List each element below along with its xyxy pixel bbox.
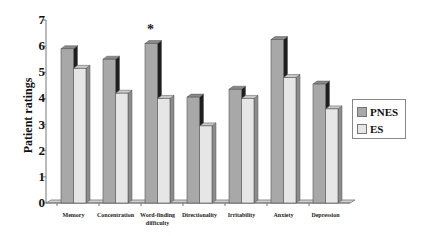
bar-pnes [229, 89, 242, 203]
bar-es [200, 126, 213, 203]
y-tick-label: 7 [35, 13, 45, 26]
legend-swatch-es [357, 124, 367, 134]
x-tick-label-line: Depression [301, 211, 351, 219]
legend: PNES ES [352, 99, 406, 139]
bar-pnes [61, 49, 74, 203]
bar-side-es [338, 106, 342, 203]
legend-label: ES [370, 123, 383, 135]
bar-pnes [271, 40, 284, 203]
y-tick-label: 6 [35, 39, 45, 52]
legend-swatch-pnes [357, 107, 367, 117]
x-tick-label-line: difficulty [133, 219, 183, 227]
bar-pnes [145, 44, 158, 203]
bar-pnes [313, 84, 326, 203]
y-tick-label: 0 [35, 196, 45, 209]
legend-item-es: ES [357, 123, 383, 135]
bar-side-es [170, 95, 174, 203]
bar-side-es [296, 75, 300, 203]
bar-es [116, 93, 129, 203]
bar-es [158, 98, 171, 203]
y-tick-label: 5 [35, 65, 45, 78]
y-tick-label: 4 [35, 91, 45, 104]
bar-chart: Patient ratings 01234567 MemoryConcentra… [0, 0, 425, 236]
bar-pnes [103, 59, 116, 203]
bar-pnes [187, 97, 200, 203]
bar-side-es [128, 90, 132, 203]
bar-es [242, 98, 255, 203]
significance-marker: * [147, 22, 154, 38]
y-axis-label: Patient ratings [21, 76, 36, 156]
bar-side-es [212, 123, 216, 203]
y-tick-label: 2 [35, 144, 45, 157]
x-tick-label: Depression [301, 211, 351, 219]
bar-es [326, 109, 339, 203]
bar-side-es [86, 65, 90, 203]
bar-es [284, 78, 297, 203]
bar-side-es [254, 95, 258, 203]
y-tick-label: 3 [35, 118, 45, 131]
legend-item-pnes: PNES [357, 106, 398, 118]
legend-label: PNES [370, 106, 398, 118]
bar-es [74, 68, 87, 203]
y-tick-label: 1 [35, 170, 45, 183]
